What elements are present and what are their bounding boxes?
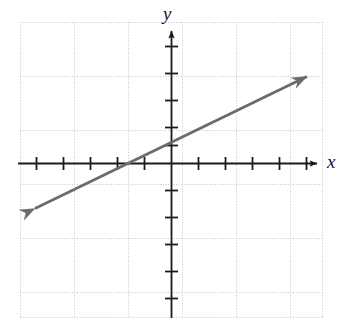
x-axis-label: x: [327, 152, 335, 171]
graph-canvas: [0, 0, 343, 330]
coordinate-plane-figure: y x: [0, 0, 343, 330]
y-axis-label: y: [163, 4, 171, 23]
